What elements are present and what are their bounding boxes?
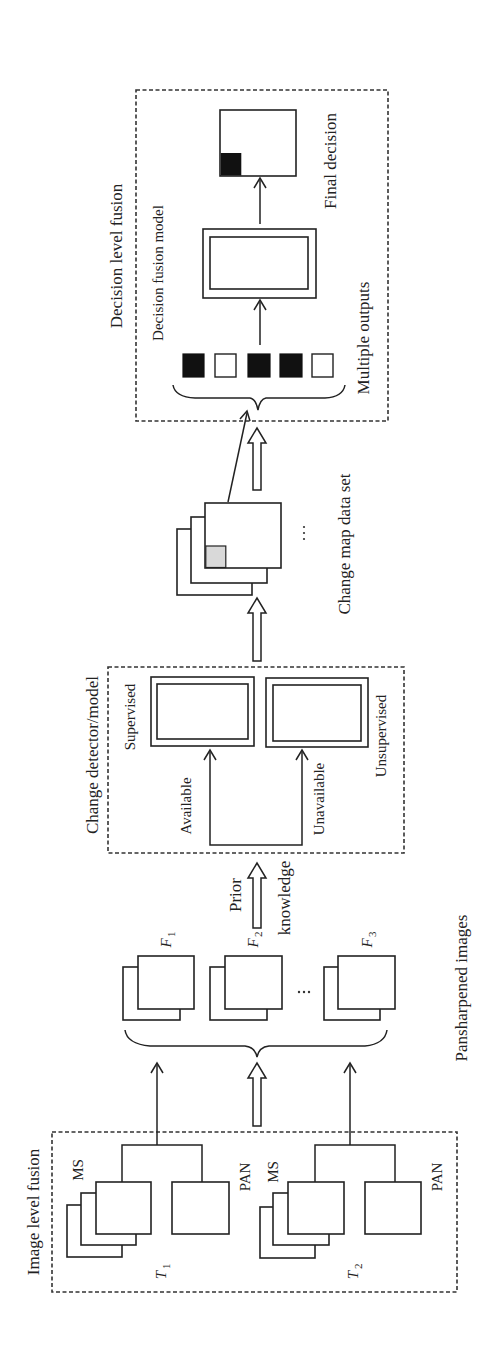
- multiple-outputs-label: Multiple outputs: [354, 282, 373, 395]
- change-map-title: Change map data set: [335, 473, 354, 614]
- svg-text:3: 3: [366, 931, 378, 937]
- change-region: [206, 546, 226, 568]
- decision-fusion-model-label: Decision fusion model: [150, 205, 166, 341]
- svg-text:2: 2: [252, 932, 264, 938]
- unavailable-label: Unavailable: [311, 762, 327, 835]
- svg-text:F: F: [245, 938, 261, 949]
- f2-image: [210, 956, 282, 1020]
- brace-icon: [173, 385, 345, 410]
- svg-text:T: T: [153, 1269, 169, 1279]
- final-decision-label: Final decision: [321, 113, 340, 209]
- unsupervised-label: Unsupervised: [373, 694, 389, 777]
- supervised-model-box: [151, 677, 254, 746]
- hollow-arrow-icon: [248, 428, 266, 490]
- ellipsis-icon: [303, 526, 305, 540]
- decision-level-section: Decision level fusion Decision fusion mo…: [107, 90, 388, 421]
- ms-stack-t2: [260, 1182, 344, 1258]
- supervised-label: Supervised: [122, 683, 138, 750]
- hollow-arrow-icon: [248, 1063, 266, 1126]
- svg-text:1: 1: [160, 1264, 172, 1270]
- f3-label: F 3: [359, 931, 378, 949]
- change-map-section: Change map data set: [177, 411, 354, 661]
- f1-label: F 1: [158, 932, 177, 949]
- change-detector-title: Change detector/model: [83, 676, 102, 834]
- svg-text:F: F: [359, 938, 375, 949]
- f3-image: [324, 956, 395, 1020]
- pansharpened-section: F 1 F 2 F 3 Pansharpened images: [123, 915, 471, 1062]
- multiple-outputs: [183, 354, 333, 377]
- pan-label-t1: PAN: [237, 1163, 253, 1192]
- svg-text:2: 2: [352, 1264, 364, 1270]
- f2-label: F 2: [245, 932, 264, 949]
- image-level-fusion-section: Image level fusion MS PAN T 1 MS PAN: [24, 1063, 457, 1292]
- prior-branch-connector: [210, 752, 302, 845]
- output-unchanged: [215, 354, 236, 377]
- output-changed: [248, 354, 270, 377]
- final-decision-map: [220, 110, 296, 176]
- brace-icon: [125, 1030, 387, 1057]
- knowledge-label: knowledge: [275, 861, 294, 936]
- final-change-region: [221, 153, 242, 176]
- fusion-framework-diagram: Image level fusion MS PAN T 1 MS PAN: [0, 0, 484, 1365]
- ellipsis-icon: [298, 991, 310, 993]
- output-changed: [280, 354, 302, 377]
- time-label-t1: T 1: [153, 1264, 172, 1280]
- svg-text:F: F: [158, 938, 174, 949]
- decision-fusion-model-box: [203, 229, 316, 298]
- image-level-fusion-title: Image level fusion: [24, 1148, 43, 1275]
- hollow-arrow-icon: [248, 598, 266, 661]
- ms-label-t1: MS: [70, 1159, 86, 1181]
- prior-knowledge: Prior knowledge: [226, 861, 294, 936]
- connector-t1: [122, 1145, 202, 1182]
- svg-text:1: 1: [165, 932, 177, 938]
- pansharpened-title: Pansharpened images: [452, 915, 471, 1062]
- ms-label-t2: MS: [265, 1161, 281, 1183]
- pan-label-t2: PAN: [429, 1163, 445, 1192]
- output-unchanged: [312, 354, 333, 377]
- available-label: Available: [178, 777, 194, 835]
- selection-line: [228, 413, 247, 502]
- prior-label: Prior: [226, 878, 245, 912]
- ms-stack-t1: [67, 1182, 151, 1257]
- svg-text:T: T: [345, 1269, 361, 1279]
- f1-image: [123, 956, 194, 1020]
- decision-level-title: Decision level fusion: [107, 183, 126, 328]
- hollow-arrow-icon: [248, 863, 266, 928]
- change-detector-section: Change detector/model Supervised Availab…: [83, 667, 404, 853]
- pan-image-t2: [365, 1182, 421, 1234]
- output-changed: [183, 354, 204, 377]
- unsupervised-model-box: [266, 678, 368, 747]
- pan-image-t1: [172, 1182, 229, 1234]
- change-map-stack: [177, 503, 281, 595]
- time-label-t2: T 2: [345, 1264, 364, 1280]
- connector-t2: [315, 1145, 395, 1182]
